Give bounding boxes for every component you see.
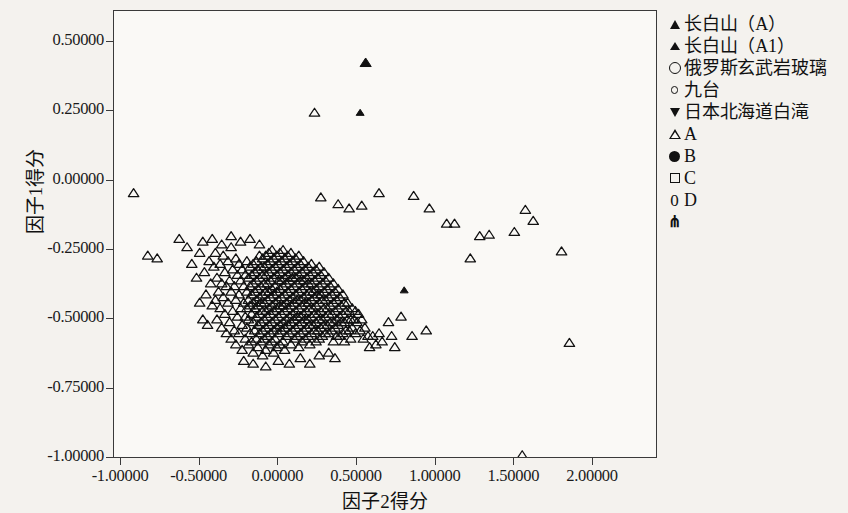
legend-label: 长白山（A） — [684, 14, 786, 34]
data-point — [383, 318, 393, 326]
zero-glyph-icon: 0 — [670, 192, 679, 209]
legend-marker: ⋔ — [666, 214, 683, 230]
filled-triangle-down-icon — [670, 108, 680, 117]
data-point — [424, 204, 434, 212]
open-square-icon — [670, 173, 680, 183]
data-point — [407, 331, 417, 339]
legend-label: 长白山（A1） — [684, 36, 795, 56]
legend-item[interactable]: A — [666, 123, 846, 145]
data-point — [509, 227, 519, 235]
bowtie-glyph-icon: ⋔ — [668, 214, 681, 230]
data-point — [237, 345, 247, 353]
data-point — [421, 326, 431, 334]
data-point — [323, 348, 333, 356]
open-circle-large-icon — [669, 62, 681, 74]
y-tick-mark — [106, 457, 113, 458]
legend-item[interactable]: C — [666, 167, 846, 189]
y-tick-mark — [106, 180, 113, 181]
data-point — [564, 338, 574, 346]
data-point — [328, 337, 338, 345]
data-point — [257, 351, 267, 359]
legend-label: C — [684, 168, 696, 188]
legend-marker — [666, 151, 683, 162]
filled-triangle-up-icon — [670, 20, 680, 29]
legend-marker — [666, 86, 683, 94]
x-tick-mark — [277, 458, 278, 465]
data-point — [408, 191, 418, 199]
y-tick-label: -0.50000 — [0, 307, 104, 327]
legend-item[interactable]: 0D — [666, 189, 846, 211]
legend-item[interactable]: 九台 — [666, 79, 846, 101]
legend-label: 日本北海道白滝 — [684, 102, 809, 122]
data-point — [239, 356, 249, 364]
y-tick-label: -0.25000 — [0, 238, 104, 258]
x-tick-mark — [120, 458, 121, 465]
data-point — [333, 200, 343, 208]
legend: 长白山（A）长白山（A1）俄罗斯玄武岩玻璃九台日本北海道白滝ABC0D⋔ — [666, 13, 846, 233]
data-point — [465, 254, 475, 262]
legend-marker — [666, 108, 683, 117]
data-point — [152, 254, 162, 262]
data-point — [305, 359, 315, 367]
legend-item[interactable]: 日本北海道白滝 — [666, 101, 846, 123]
x-tick-mark — [356, 458, 357, 465]
data-point — [254, 240, 264, 248]
data-point — [295, 354, 305, 362]
data-point — [128, 189, 138, 197]
legend-marker — [666, 20, 683, 29]
data-point — [360, 58, 371, 67]
data-point — [199, 268, 209, 276]
data-point — [248, 359, 258, 367]
data-point — [174, 234, 184, 242]
legend-marker — [666, 42, 683, 50]
data-point — [374, 189, 384, 197]
legend-item[interactable]: 长白山（A1） — [666, 35, 846, 57]
data-point — [261, 362, 271, 370]
data-point — [143, 251, 153, 259]
y-tick-mark — [106, 249, 113, 250]
data-point — [400, 287, 408, 293]
legend-label: 九台 — [684, 80, 720, 100]
data-point — [344, 204, 354, 212]
y-tick-mark — [106, 110, 113, 111]
y-tick-mark — [106, 41, 113, 42]
data-point — [187, 259, 197, 267]
data-point — [330, 354, 340, 362]
data-point — [396, 312, 406, 320]
legend-marker — [666, 129, 683, 139]
legend-marker — [666, 173, 683, 183]
data-point — [194, 248, 204, 256]
data-point — [520, 205, 530, 213]
x-tick-mark — [513, 458, 514, 465]
legend-item[interactable]: 长白山（A） — [666, 13, 846, 35]
data-point — [194, 298, 204, 306]
scatter-canvas — [114, 11, 656, 457]
data-point — [284, 359, 294, 367]
data-point — [484, 230, 494, 238]
legend-marker: 0 — [666, 192, 683, 209]
legend-marker — [666, 62, 683, 74]
y-tick-label: 0.50000 — [0, 30, 104, 50]
y-tick-label: -1.00000 — [0, 446, 104, 466]
filled-circle-icon — [669, 151, 680, 162]
data-point — [207, 301, 217, 309]
y-tick-label: 0.25000 — [0, 99, 104, 119]
legend-item[interactable]: B — [666, 145, 846, 167]
legend-label: A — [684, 124, 697, 144]
legend-item[interactable]: ⋔ — [666, 211, 846, 233]
scatter-series — [128, 108, 574, 457]
legend-label: B — [684, 146, 696, 166]
filled-triangle-up-small-icon — [670, 42, 680, 50]
data-point — [198, 237, 208, 245]
data-point — [207, 234, 217, 242]
scatter-series — [356, 109, 408, 293]
legend-label: 俄罗斯玄武岩玻璃 — [684, 58, 826, 78]
y-tick-label: 0.00000 — [0, 169, 104, 189]
legend-item[interactable]: 俄罗斯玄武岩玻璃 — [666, 57, 846, 79]
data-point — [556, 247, 566, 255]
data-point — [205, 279, 215, 287]
scatter-markers — [114, 11, 656, 457]
y-tick-mark — [106, 388, 113, 389]
data-point — [314, 351, 324, 359]
